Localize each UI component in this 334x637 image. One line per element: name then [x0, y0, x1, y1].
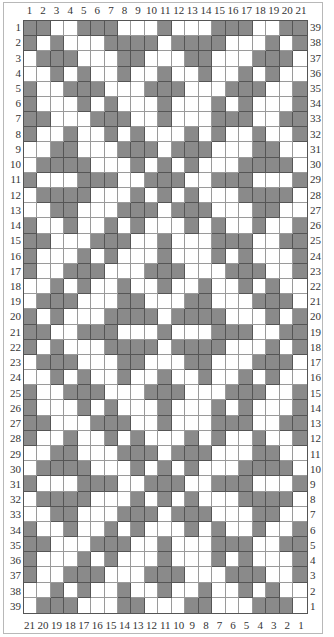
empty-cell — [145, 537, 158, 552]
empty-cell — [118, 522, 131, 537]
empty-cell — [78, 127, 91, 142]
empty-cell — [118, 249, 131, 264]
filled-cell — [266, 446, 279, 461]
filled-cell — [266, 158, 279, 173]
empty-cell — [185, 567, 198, 582]
column-label: 16 — [226, 5, 240, 16]
row-label: 13 — [310, 418, 324, 429]
empty-cell — [266, 400, 279, 415]
filled-cell — [158, 234, 171, 249]
empty-cell — [199, 97, 212, 112]
empty-cell — [51, 567, 64, 582]
filled-cell — [78, 279, 91, 294]
empty-cell — [118, 97, 131, 112]
empty-cell — [280, 507, 293, 522]
empty-cell — [158, 522, 171, 537]
empty-cell — [64, 537, 77, 552]
empty-cell — [253, 552, 266, 567]
filled-cell — [158, 370, 171, 385]
column-label: 13 — [186, 5, 200, 16]
empty-cell — [64, 340, 77, 355]
filled-cell — [105, 431, 118, 446]
filled-cell — [293, 400, 306, 415]
filled-cell — [158, 583, 171, 598]
filled-cell — [105, 21, 118, 36]
empty-cell — [91, 552, 104, 567]
filled-cell — [253, 82, 266, 97]
filled-cell — [239, 112, 252, 127]
filled-cell — [78, 173, 91, 188]
empty-cell — [226, 583, 239, 598]
filled-cell — [212, 522, 225, 537]
empty-cell — [37, 446, 50, 461]
row-label: 19 — [310, 327, 324, 338]
filled-cell — [293, 234, 306, 249]
empty-cell — [158, 36, 171, 51]
empty-cell — [51, 218, 64, 233]
empty-cell — [145, 431, 158, 446]
empty-cell — [253, 279, 266, 294]
row-label: 34 — [4, 525, 21, 536]
empty-cell — [253, 583, 266, 598]
empty-cell — [131, 537, 144, 552]
row-label: 1 — [310, 601, 324, 612]
empty-cell — [212, 279, 225, 294]
filled-cell — [24, 385, 37, 400]
empty-cell — [91, 36, 104, 51]
row-label: 39 — [4, 601, 21, 612]
empty-cell — [64, 400, 77, 415]
filled-cell — [172, 142, 185, 157]
empty-cell — [78, 507, 91, 522]
empty-cell — [78, 355, 91, 370]
filled-cell — [158, 82, 171, 97]
filled-cell — [24, 567, 37, 582]
row-label: 4 — [310, 555, 324, 566]
empty-cell — [158, 446, 171, 461]
empty-cell — [172, 97, 185, 112]
empty-cell — [172, 431, 185, 446]
filled-cell — [51, 461, 64, 476]
filled-cell — [158, 567, 171, 582]
filled-cell — [280, 51, 293, 66]
empty-cell — [131, 21, 144, 36]
filled-cell — [51, 36, 64, 51]
empty-cell — [266, 325, 279, 340]
filled-cell — [266, 583, 279, 598]
filled-cell — [226, 173, 239, 188]
empty-cell — [64, 416, 77, 431]
filled-cell — [212, 249, 225, 264]
empty-cell — [37, 264, 50, 279]
filled-cell — [239, 492, 252, 507]
row-label: 6 — [310, 525, 324, 536]
empty-cell — [280, 431, 293, 446]
filled-cell — [24, 218, 37, 233]
empty-cell — [293, 279, 306, 294]
filled-cell — [37, 112, 50, 127]
filled-cell — [253, 355, 266, 370]
empty-cell — [78, 309, 91, 324]
empty-cell — [91, 355, 104, 370]
empty-cell — [199, 492, 212, 507]
column-label: 17 — [77, 620, 91, 631]
empty-cell — [158, 294, 171, 309]
filled-cell — [24, 264, 37, 279]
filled-cell — [118, 234, 131, 249]
filled-cell — [37, 537, 50, 552]
filled-cell — [239, 567, 252, 582]
empty-cell — [37, 522, 50, 537]
filled-cell — [185, 431, 198, 446]
empty-cell — [293, 370, 306, 385]
row-label: 7 — [310, 509, 324, 520]
empty-cell — [185, 476, 198, 491]
empty-cell — [105, 142, 118, 157]
empty-cell — [280, 476, 293, 491]
filled-cell — [64, 218, 77, 233]
empty-cell — [253, 309, 266, 324]
empty-cell — [266, 249, 279, 264]
empty-cell — [145, 218, 158, 233]
empty-cell — [78, 446, 91, 461]
row-label: 30 — [310, 159, 324, 170]
filled-cell — [199, 309, 212, 324]
empty-cell — [172, 279, 185, 294]
empty-cell — [91, 249, 104, 264]
